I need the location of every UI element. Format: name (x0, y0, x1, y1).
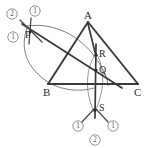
step-marker-label: 2 (10, 10, 14, 18)
tick-arc-at-s-a (82, 108, 95, 122)
vertex-label-c: C (134, 86, 141, 98)
step-marker-s-left: 1 (73, 121, 83, 131)
construction-canvas: A B C P R Q S 2 1 1 1 1 2 (0, 0, 154, 148)
point-label-s: S (99, 102, 105, 113)
point-dot-s (93, 108, 96, 111)
step-marker-label: 1 (111, 122, 115, 130)
step-marker-label: 2 (93, 136, 97, 144)
point-dot-r (94, 53, 97, 56)
step-marker-label: 1 (11, 33, 15, 41)
vertex-label-b: B (43, 86, 50, 98)
point-dot-q (94, 68, 97, 71)
step-marker-p-upper-right: 1 (30, 6, 40, 16)
step-marker-s-right: 1 (108, 121, 118, 131)
geometry-figure: A B C P R Q S 2 1 1 1 1 2 (0, 0, 154, 148)
vertex-label-a: A (84, 9, 92, 21)
point-label-q: Q (99, 64, 107, 75)
large-arc-lower-sweep (24, 28, 94, 90)
step-marker-label: 1 (33, 7, 37, 15)
point-label-r: R (99, 48, 106, 59)
point-label-p: P (25, 29, 31, 40)
line-a-to-r (88, 24, 96, 56)
step-marker-label: 1 (76, 122, 80, 130)
line-from-p-through-q (22, 24, 122, 88)
step-marker-p-lower-left: 1 (8, 32, 18, 42)
step-marker-p-upper-left: 2 (7, 9, 17, 19)
step-marker-s-bottom: 2 (90, 135, 100, 145)
